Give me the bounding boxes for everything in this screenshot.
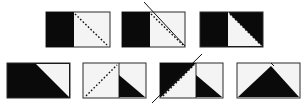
panel-bottom-4: [237, 63, 300, 98]
panel-bottom-2: [83, 63, 146, 98]
panel-bottom-1: [7, 63, 70, 98]
panel-bottom-3: [152, 54, 223, 103]
panel-top-3: [200, 12, 263, 47]
panel-top-2: [122, 2, 185, 47]
panel-top-1: [46, 12, 110, 47]
diagram-canvas: [0, 0, 303, 104]
folding-diagram: [0, 0, 303, 104]
